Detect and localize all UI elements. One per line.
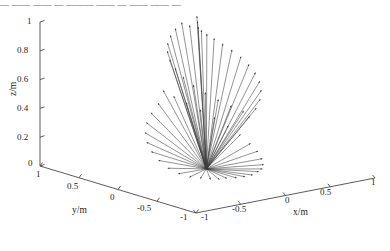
y-tick-3: -0.5 (137, 204, 151, 213)
z-tick-2: 0.6 (17, 75, 28, 84)
x-tick-0: -1 (201, 213, 209, 222)
x-tick-4: 1 (371, 178, 376, 187)
z-tick-0: 1 (27, 17, 32, 26)
z-tick-3: 0.4 (17, 104, 28, 113)
y-tick-0: 1 (36, 170, 41, 179)
y-axis-title: y/m (72, 205, 87, 215)
x-axis-title: x/m (293, 207, 308, 217)
z-tick-4: 0.2 (17, 133, 28, 142)
z-tick-1: 0.8 (17, 46, 28, 55)
figure-root: — —— —— — ——— —— — —— —— — 10.80.60.40.2… (0, 0, 390, 251)
x-tick-3: 0.5 (320, 188, 331, 197)
z-axis-title: z/m (8, 82, 18, 96)
x-tick-1: -0.5 (232, 205, 246, 214)
y-tick-1: 0.5 (67, 182, 78, 191)
vector-arrows-group (145, 16, 264, 180)
y-tick-2: 0 (110, 193, 115, 202)
x-tick-2: 0 (285, 196, 290, 205)
axes-group (40, 21, 375, 214)
y-tick-4: -1 (180, 213, 188, 222)
quiver-plot-canvas (0, 0, 390, 251)
z-tick-5: 0 (28, 159, 33, 168)
